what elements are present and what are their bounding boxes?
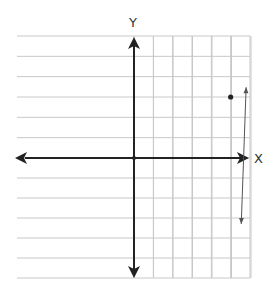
point-marked-point <box>228 94 233 99</box>
point-origin <box>132 156 136 160</box>
coordinate-plane: X Y <box>0 0 278 296</box>
series-arrow-start-icon <box>239 218 244 224</box>
axes <box>15 37 249 278</box>
series-arrow-end-icon <box>243 87 248 93</box>
y-axis-label: Y <box>128 15 137 30</box>
points <box>132 94 233 160</box>
x-axis-label: X <box>254 151 263 166</box>
